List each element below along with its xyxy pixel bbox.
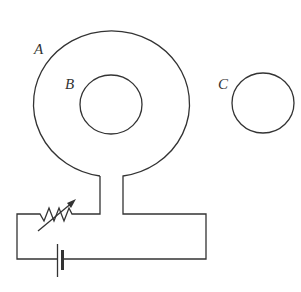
- label-b: B: [65, 77, 74, 92]
- label-a: A: [34, 42, 43, 57]
- circuit-diagram: [0, 0, 301, 292]
- label-c: C: [218, 77, 228, 92]
- variable-resistor: [17, 208, 75, 259]
- loop-a: [34, 31, 207, 259]
- ring-c: [232, 73, 294, 133]
- battery-icon: [58, 244, 63, 277]
- rheostat-arrow-icon: [38, 199, 76, 231]
- ring-b: [80, 75, 142, 134]
- left-lead-wire: [75, 176, 100, 214]
